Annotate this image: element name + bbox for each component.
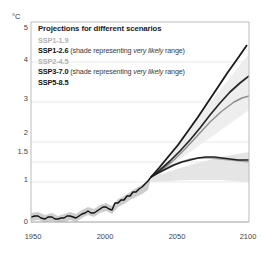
legend-label-ssp2-4.5: SSP2-4.5 [38,57,68,66]
legend-note-ssp1-2.6-pre: (shade representing [68,46,133,55]
legend-item-ssp1-2.6: SSP1-2.6 (shade representing very likely… [38,46,234,56]
historical-uncertainty-band [31,177,151,222]
legend: Projections for different scenarios SSP1… [38,24,234,88]
legend-note-ssp3-7.0-pre: (shade representing [68,67,133,76]
legend-label-ssp1-1.9: SSP1-1.9 [38,36,68,45]
legend-title: Projections for different scenarios [38,24,234,34]
legend-item-ssp1-1.9: SSP1-1.9 [38,36,234,46]
legend-note-ssp1-2.6-post: range) [163,46,185,55]
legend-item-ssp2-4.5: SSP2-4.5 [38,57,234,67]
legend-label-ssp3-7.0: SSP3-7.0 [38,67,68,76]
legend-note-ssp3-7.0-post: range) [163,67,185,76]
legend-item-ssp5-8.5: SSP5-8.5 [38,78,234,88]
climate-projection-chart: °C 5 4 3 2 1.5 1 0 1950 2000 2050 2100 [0,0,262,255]
legend-note-ssp3-7.0-em: very likely [133,67,163,76]
legend-label-ssp1-2.6: SSP1-2.6 [38,46,68,55]
legend-label-ssp5-8.5: SSP5-8.5 [38,78,68,87]
legend-item-ssp3-7.0: SSP3-7.0 (shade representing very likely… [38,67,234,77]
legend-note-ssp1-2.6-em: very likely [133,46,163,55]
